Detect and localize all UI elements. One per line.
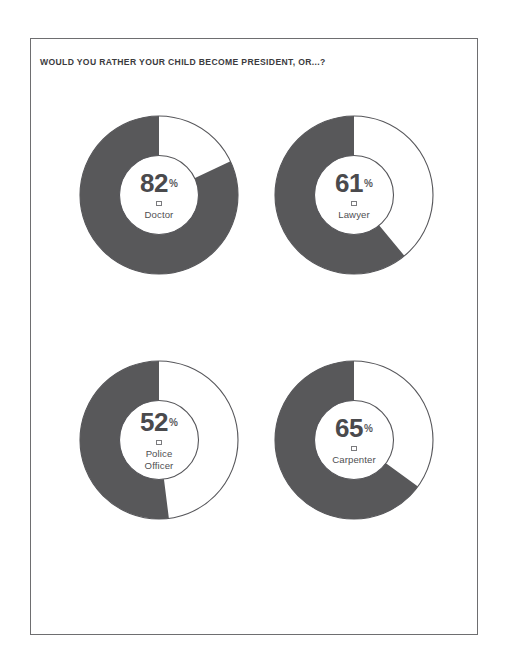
donut-chart-lawyer: 61 % Lawyer bbox=[256, 97, 452, 293]
donut-chart-carpenter: 65 % Carpenter bbox=[256, 342, 452, 538]
donut-svg-lawyer bbox=[256, 97, 452, 293]
page-title: WOULD YOU RATHER YOUR CHILD BECOME PRESI… bbox=[40, 57, 326, 67]
donut-svg-carpenter bbox=[256, 342, 452, 538]
donut-chart-doctor: 82 % Doctor bbox=[61, 97, 257, 293]
donut-svg-police-officer bbox=[61, 342, 257, 538]
donut-svg-doctor bbox=[61, 97, 257, 293]
donut-chart-police-officer: 52 % Police Officer bbox=[61, 342, 257, 538]
poster-frame: WOULD YOU RATHER YOUR CHILD BECOME PRESI… bbox=[30, 38, 478, 635]
donut-chart-grid: 82 % Doctor 61 % Lawyer bbox=[31, 97, 477, 597]
